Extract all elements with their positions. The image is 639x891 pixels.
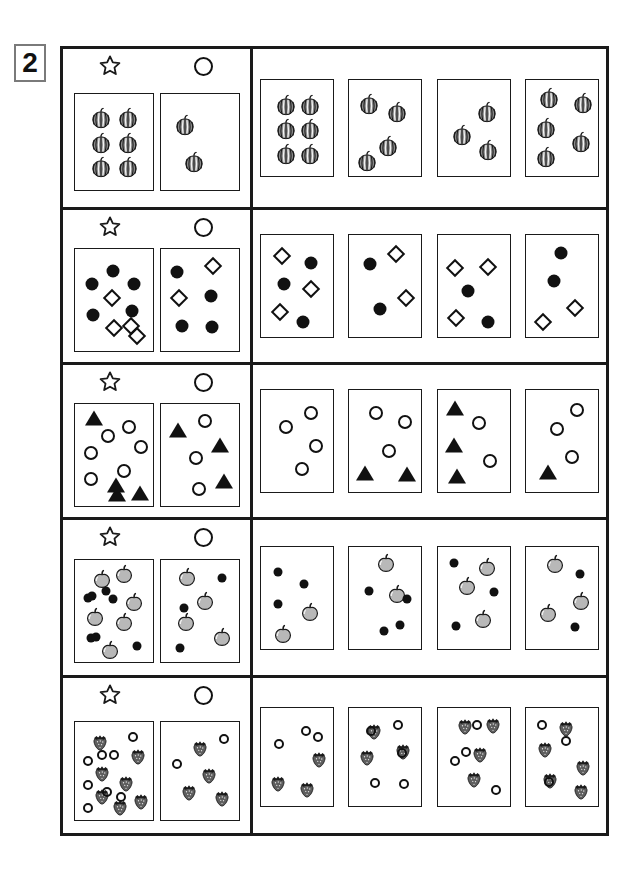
watermelon-icon [275,94,296,115]
black-dot-icon [300,580,309,589]
filled-circle-icon [86,278,99,291]
option-card-1[interactable] [260,389,334,493]
open-circle-icon [313,732,323,742]
diamond-icon [105,319,123,337]
watermelon-icon [358,93,379,114]
open-circle-icon [366,726,376,736]
option-card-2[interactable] [348,234,422,338]
option-card-2[interactable] [348,546,422,650]
strawberry-icon [132,792,149,810]
open-circle-icon [83,803,93,813]
option-card-2[interactable] [348,79,422,177]
star-prompt-card [74,248,154,352]
diamond-icon [170,289,188,307]
watermelon-icon [275,143,296,164]
apple-icon [100,640,119,659]
option-card-3[interactable] [437,79,511,177]
option-card-2[interactable] [348,707,422,807]
open-circle-icon [309,439,323,453]
filled-circle-icon [461,284,474,297]
strawberry-icon [201,766,218,784]
apple-icon [124,592,143,611]
black-dot-icon [364,586,373,595]
prompt-header [63,210,250,237]
row-watermelon [63,49,606,210]
star-icon [99,526,121,547]
watermelon-icon [91,108,112,129]
apple-icon [458,577,477,596]
option-card-1[interactable] [260,707,334,807]
prompt-panel [63,520,253,675]
strawberry-icon [310,750,327,768]
diamond-icon [301,280,319,298]
exercise-number-tag: 2 [14,44,46,82]
circle-prompt-card [160,559,240,663]
black-dot-icon [576,570,585,579]
filled-circle-icon [278,278,291,291]
strawberry-icon [92,733,109,751]
open-circle-icon [84,446,98,460]
open-circle-icon [83,780,93,790]
black-dot-icon [133,642,142,651]
watermelon-icon [183,151,204,172]
open-circle-icon [116,792,126,802]
star-prompt-card [74,93,154,191]
apple-icon [213,627,232,646]
options-panel [253,365,606,517]
filled-circle-icon [126,305,139,318]
open-circle-icon [491,785,501,795]
open-circle-icon [172,759,182,769]
open-circle-icon [109,750,119,760]
option-card-4[interactable] [525,546,599,650]
option-card-4[interactable] [525,79,599,177]
apple-icon [478,557,497,576]
triangle-icon [446,401,464,416]
open-circle-icon [472,720,482,730]
black-dot-icon [273,567,282,576]
option-card-1[interactable] [260,234,334,338]
diamond-icon [387,245,405,263]
triangle-icon [107,478,125,493]
watermelon-icon [91,132,112,153]
option-card-3[interactable] [437,389,511,493]
triangle-icon [356,465,374,480]
filled-circle-icon [554,247,567,260]
option-card-3[interactable] [437,234,511,338]
option-card-1[interactable] [260,546,334,650]
star-prompt-card [74,721,154,821]
watermelon-icon [117,132,138,153]
triangle-icon [85,411,103,426]
triangle-icon [131,486,149,501]
open-circle-icon [102,787,112,797]
option-card-4[interactable] [525,389,599,493]
options-panel [253,520,606,675]
apple-icon [196,592,215,611]
open-circle-icon [301,726,311,736]
strawberry-icon [180,783,197,801]
triangle-icon [169,422,187,437]
open-circle-icon [117,464,131,478]
black-dot-icon [218,574,227,583]
option-card-2[interactable] [348,389,422,493]
option-card-3[interactable] [437,707,511,807]
filled-circle-icon [176,319,189,332]
triangle-icon [539,465,557,480]
circle-icon [194,373,213,392]
option-card-1[interactable] [260,79,334,177]
watermelon-icon [117,108,138,129]
open-circle-icon [84,472,98,486]
options-panel [253,49,606,207]
strawberry-icon [298,780,315,798]
option-card-3[interactable] [437,546,511,650]
watermelon-icon [91,157,112,178]
black-dot-icon [452,621,461,630]
watermelon-icon [572,93,593,114]
option-card-4[interactable] [525,234,599,338]
watermelon-icon [356,151,377,172]
apple-icon [571,591,590,610]
open-circle-icon [274,739,284,749]
watermelon-icon [536,117,557,138]
open-circle-icon [450,756,460,766]
watermelon-icon [570,132,591,153]
option-card-4[interactable] [525,707,599,807]
